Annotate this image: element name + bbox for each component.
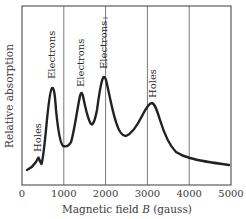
annotation-holes-2: Holes xyxy=(147,69,158,98)
absorption-chart: Holes Electrons Electrons Electrons Hole… xyxy=(0,0,246,219)
annotation-holes-1: Holes xyxy=(32,123,43,152)
x-tick-0: 0 xyxy=(19,188,25,199)
absorption-curve xyxy=(27,77,229,170)
x-tick-1000: 1000 xyxy=(51,188,76,199)
x-axis-label: Magnetic field B (gauss) xyxy=(62,203,192,215)
x-tick-3000: 3000 xyxy=(135,188,160,199)
annotation-electrons-2: Electrons xyxy=(75,39,86,87)
x-tick-labels: 0 1000 2000 3000 4000 5000 xyxy=(19,188,244,199)
annotation-electrons-1: Electrons xyxy=(46,31,57,79)
annotation-electrons-3: Electrons xyxy=(98,21,109,69)
y-axis-label: Relative absorption xyxy=(3,44,15,148)
x-tick-2000: 2000 xyxy=(93,188,118,199)
x-tick-4000: 4000 xyxy=(176,188,201,199)
x-tick-5000: 5000 xyxy=(218,188,243,199)
